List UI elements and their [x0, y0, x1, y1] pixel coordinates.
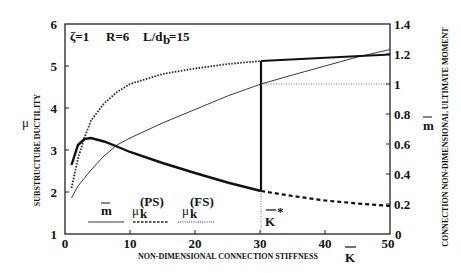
- y-right-tick-0.2: 0.2: [394, 197, 410, 212]
- legend-sup-fs: (FS): [190, 194, 214, 209]
- legend-sup-ps: (PS): [140, 194, 164, 209]
- y-right-tick-labels: 0 0.2 0.4 0.6 0.8 1 1.2 1.4: [394, 17, 411, 242]
- param-l: L/d: [143, 29, 163, 44]
- y-right-tick-0.6: 0.6: [394, 137, 411, 152]
- chart-canvas: 0 10 20 30 40 50 1 2 3 4 5 6 0 0.2 0.4 0…: [0, 0, 461, 273]
- x-tick-50: 50: [382, 236, 395, 251]
- y-left-tick-3: 3: [51, 143, 58, 158]
- y-right-tick-1.2: 1.2: [394, 47, 410, 62]
- param-zeta: ζ=1: [70, 29, 89, 44]
- y-left-tick-5: 5: [51, 59, 58, 74]
- y-right-tick-0.8: 0.8: [394, 107, 411, 122]
- param-r: R=6: [106, 29, 130, 44]
- y-right-tick-0: 0: [395, 227, 402, 242]
- x-tick-labels: 0 10 20 30 40 50: [62, 236, 395, 251]
- y-right-tick-1.4: 1.4: [394, 17, 411, 32]
- y-right-tick-1: 1: [394, 77, 401, 92]
- x-tick-0: 0: [62, 236, 69, 251]
- y-left-tick-4: 4: [51, 101, 58, 116]
- legend-label-mu-fs: μ: [182, 203, 189, 218]
- y-right-tick-0.4: 0.4: [394, 167, 411, 182]
- y-left-axis-title: SUBSTRUCTURE DUCTILITY: [33, 94, 42, 206]
- x-axis-symbol: K: [345, 250, 356, 265]
- plot-frame: [65, 24, 390, 234]
- x-tick-30: 30: [254, 236, 267, 251]
- x-tick-40: 40: [319, 236, 332, 251]
- legend-label-mu-ps: μ: [132, 203, 139, 218]
- series-mu-upper: [261, 55, 390, 62]
- param-l-value: =15: [169, 29, 190, 44]
- y-left-tick-labels: 1 2 3 4 5 6: [51, 17, 58, 242]
- x-tick-20: 20: [189, 236, 202, 251]
- series-mu-fs: [72, 61, 262, 188]
- parameter-annotation: ζ=1 R=6 L/d b =15: [70, 29, 190, 47]
- y-left-tick-6: 6: [51, 17, 58, 32]
- y-left-axis-symbol: μ: [22, 115, 29, 130]
- series-m-bar: [72, 50, 391, 199]
- x-tick-10: 10: [124, 236, 137, 251]
- series-mu-ps: [72, 138, 262, 191]
- kstar-superscript: *: [277, 204, 284, 219]
- y-left-tick-1: 1: [51, 227, 58, 242]
- y-left-tick-2: 2: [51, 185, 58, 200]
- y-right-axis-title: CONNECTION NON-DIMENSIONAL ULTIMATE MOME…: [441, 27, 450, 247]
- legend-label-m: m: [101, 203, 112, 218]
- legend: m μ k (PS) μ k (FS): [88, 194, 215, 222]
- x-axis-title: NON-DIMENSIONAL CONNECTION STIFFNESS: [138, 252, 319, 261]
- kstar-label: K: [265, 214, 276, 229]
- y-right-axis-symbol: m: [423, 118, 434, 133]
